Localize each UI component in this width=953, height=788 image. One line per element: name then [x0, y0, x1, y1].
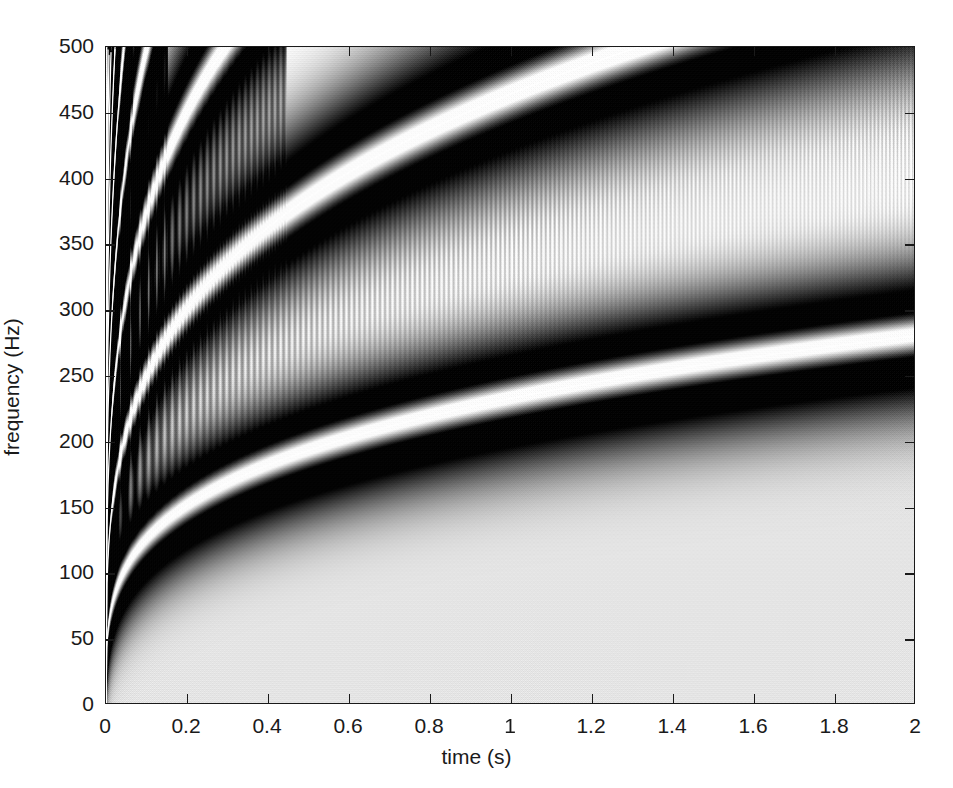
x-tick-label: 1.4 — [657, 714, 686, 738]
x-tick-label: 0.4 — [252, 714, 281, 738]
y-tick-right — [905, 639, 914, 640]
y-tick-right — [905, 442, 914, 443]
y-tick — [106, 376, 115, 377]
x-axis-title: time (s) — [0, 745, 953, 769]
y-tick-label: 250 — [30, 363, 94, 387]
y-tick-label: 50 — [30, 626, 94, 650]
x-tick — [268, 694, 269, 703]
x-tick-top — [268, 47, 269, 56]
y-tick-label: 500 — [30, 34, 94, 58]
y-tick — [106, 244, 115, 245]
y-tick-right — [905, 179, 914, 180]
y-tick — [106, 310, 115, 311]
x-tick — [349, 694, 350, 703]
x-tick-top — [754, 47, 755, 56]
x-tick-top — [673, 47, 674, 56]
y-tick — [106, 179, 115, 180]
x-tick — [430, 694, 431, 703]
x-tick-top — [835, 47, 836, 56]
x-tick-label: 1.2 — [576, 714, 605, 738]
y-tick-label: 100 — [30, 560, 94, 584]
figure-container: 00.20.40.60.811.21.41.61.820501001502002… — [0, 0, 953, 788]
x-tick-label: 1 — [504, 714, 516, 738]
y-tick-right — [905, 376, 914, 377]
y-tick-label: 300 — [30, 297, 94, 321]
y-tick — [106, 113, 115, 114]
x-tick — [673, 694, 674, 703]
x-tick-label: 1.6 — [738, 714, 767, 738]
y-tick-right — [905, 508, 914, 509]
y-tick — [106, 508, 115, 509]
y-tick-label: 450 — [30, 100, 94, 124]
x-tick-label: 0.2 — [171, 714, 200, 738]
y-tick-right — [905, 310, 914, 311]
x-tick-top — [349, 47, 350, 56]
y-tick-right — [905, 244, 914, 245]
y-tick — [106, 573, 115, 574]
x-tick-top — [187, 47, 188, 56]
x-tick — [754, 694, 755, 703]
x-tick-label: 2 — [909, 714, 921, 738]
y-tick — [106, 442, 115, 443]
y-tick — [106, 639, 115, 640]
x-tick-label: 1.8 — [819, 714, 848, 738]
x-tick — [511, 694, 512, 703]
x-tick-label: 0 — [99, 714, 111, 738]
y-axis-title: frequency (Hz) — [0, 257, 24, 517]
y-tick-label: 150 — [30, 495, 94, 519]
x-tick — [592, 694, 593, 703]
y-tick-right — [905, 573, 914, 574]
x-tick — [187, 694, 188, 703]
y-tick-label: 200 — [30, 429, 94, 453]
y-tick-label: 400 — [30, 166, 94, 190]
x-tick-top — [511, 47, 512, 56]
x-tick-top — [430, 47, 431, 56]
x-tick-label: 0.6 — [333, 714, 362, 738]
plot-area — [105, 46, 915, 704]
x-tick-label: 0.8 — [414, 714, 443, 738]
time-frequency-heatmap — [106, 47, 914, 703]
x-tick-top — [592, 47, 593, 56]
y-tick-right — [905, 113, 914, 114]
x-tick — [835, 694, 836, 703]
y-tick-label: 0 — [30, 692, 94, 716]
y-tick-label: 350 — [30, 231, 94, 255]
